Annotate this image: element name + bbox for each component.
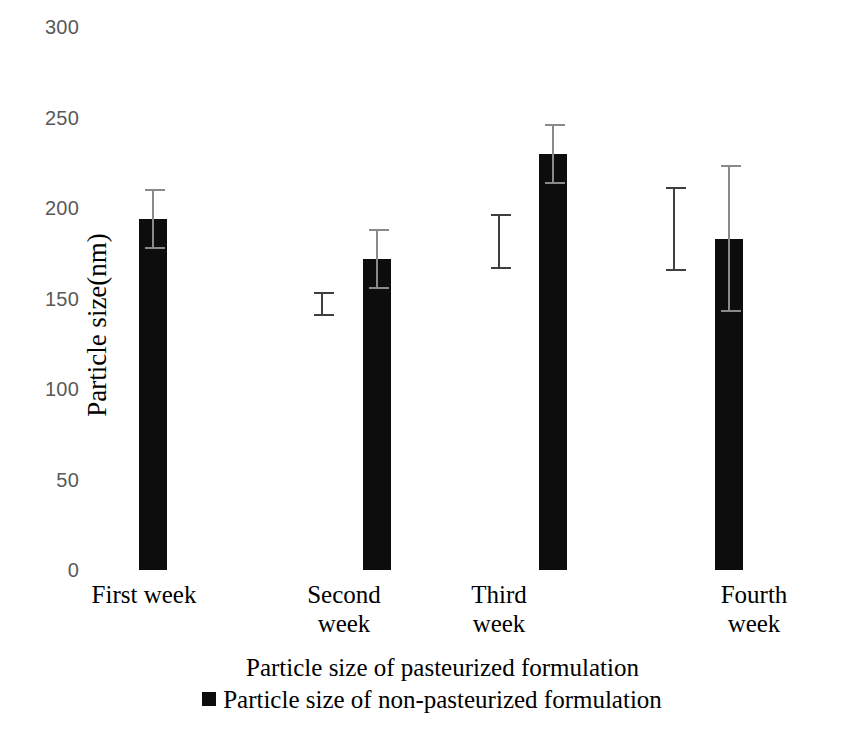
x-tick-label-third-week: Third week	[410, 581, 588, 639]
bar-group-second-week	[263, 27, 441, 570]
legend-swatch-non-pasteurized-icon	[202, 692, 216, 706]
plot-area: 300 250 200 150 100 50 0	[85, 27, 855, 570]
error-cap-bottom	[145, 247, 165, 249]
chart-legend: Particle size of pasteurized formulation…	[0, 652, 864, 716]
x-tick-line: week	[665, 610, 843, 639]
bar-group-first-week	[85, 27, 263, 570]
bar-non-pasteurized-first-week	[139, 219, 167, 570]
error-cap-bottom	[545, 182, 565, 184]
legend-item-pasteurized[interactable]: Particle size of pasteurized formulation	[0, 652, 864, 684]
error-cap-top	[314, 292, 334, 294]
x-tick-label-fourth-week: Fourth week	[665, 581, 843, 639]
x-tick-line: Third	[410, 581, 588, 610]
error-bar-non-pasteurized-first-week	[152, 190, 154, 248]
bar-chart-figure: Particle size(nm) 300 250 200 150 100 50…	[0, 0, 864, 732]
bar-group-third-week	[441, 27, 619, 570]
x-tick-label-second-week: Second week	[255, 581, 433, 639]
y-tick-label-50: 50	[56, 468, 79, 491]
y-tick-label-0: 0	[68, 559, 79, 582]
x-tick-line: week	[255, 610, 433, 639]
y-tick-label-200: 200	[45, 197, 79, 220]
y-tick-label-300: 300	[45, 16, 79, 39]
error-cap-bottom	[721, 310, 741, 312]
error-bar-non-pasteurized-second-week	[376, 230, 378, 288]
error-cap-bottom	[369, 287, 389, 289]
error-cap-bottom	[491, 267, 511, 269]
error-cap-top	[721, 165, 741, 167]
x-tick-line: Second	[255, 581, 433, 610]
error-bar-pasteurized-third-week	[498, 215, 500, 268]
error-cap-bottom	[666, 269, 686, 271]
bar-non-pasteurized-third-week	[539, 154, 567, 570]
y-tick-label-100: 100	[45, 378, 79, 401]
x-tick-label-first-week: First week	[55, 581, 233, 610]
x-tick-line: First week	[55, 581, 233, 610]
y-tick-label-250: 250	[45, 106, 79, 129]
x-tick-line: Fourth	[665, 581, 843, 610]
y-axis-title-container: Particle size(nm)	[0, 150, 44, 500]
error-cap-top	[545, 124, 565, 126]
legend-label-non-pasteurized: Particle size of non-pasteurized formula…	[223, 686, 662, 713]
legend-item-non-pasteurized[interactable]: Particle size of non-pasteurized formula…	[0, 684, 864, 716]
error-cap-top	[145, 189, 165, 191]
error-cap-top	[491, 214, 511, 216]
bar-group-fourth-week	[619, 27, 797, 570]
legend-label-pasteurized: Particle size of pasteurized formulation	[246, 654, 639, 681]
bar-non-pasteurized-second-week	[363, 259, 391, 570]
error-bar-non-pasteurized-third-week	[552, 125, 554, 183]
error-bar-non-pasteurized-fourth-week	[728, 166, 730, 311]
error-cap-top	[666, 187, 686, 189]
error-bar-pasteurized-fourth-week	[673, 188, 675, 270]
y-tick-label-150: 150	[45, 287, 79, 310]
error-cap-top	[369, 229, 389, 231]
error-bar-pasteurized-second-week	[321, 293, 323, 315]
error-cap-bottom	[314, 314, 334, 316]
x-tick-line: week	[410, 610, 588, 639]
legend-swatch-pasteurized-icon	[225, 660, 239, 674]
